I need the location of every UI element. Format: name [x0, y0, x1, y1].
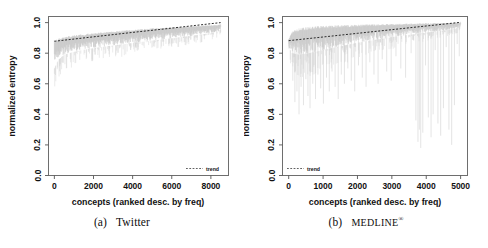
plot-twitter: 0.00.20.40.60.81.0 02000400060008000 nor… [0, 0, 244, 216]
x-tick-label: 0 [52, 181, 57, 191]
plot-medline: 0.00.20.40.60.81.0 010002000300040005000… [244, 0, 488, 216]
plot-area-medline [289, 22, 461, 148]
caption-name-a: Twitter [116, 216, 150, 228]
caption-name-b: MEDLINE [351, 217, 398, 228]
data-spikes-medline [293, 23, 459, 148]
registered-mark-icon: ® [398, 215, 403, 222]
legend-twitter: trend [186, 166, 219, 172]
y-tick-label: 0.2 [267, 139, 277, 151]
x-tick-label: 2000 [348, 181, 367, 191]
caption-medline: (b) MEDLINE® [244, 216, 488, 228]
x-tick-label: 2000 [84, 181, 103, 191]
x-tick-label: 3000 [382, 181, 401, 191]
y-tick-label: 0.4 [267, 108, 277, 120]
y-tick-label: 0.8 [33, 47, 43, 59]
x-tick-label: 4000 [417, 181, 436, 191]
data-band-twitter [54, 24, 220, 86]
y-tick-label: 0.0 [33, 169, 43, 181]
x-axis-twitter: 02000400060008000 [52, 176, 221, 191]
y-tick-label: 0.2 [33, 139, 43, 151]
y-tick-label: 1.0 [33, 16, 43, 28]
y-axis-title-twitter: normalized entropy [7, 55, 17, 136]
y-tick-label: 0.0 [267, 169, 277, 181]
x-tick-label: 4000 [123, 181, 142, 191]
x-tick-label: 8000 [201, 181, 220, 191]
y-tick-label: 0.6 [33, 78, 43, 90]
legend-label-trend: trend [206, 166, 219, 172]
x-tick-label: 1000 [314, 181, 333, 191]
panel-medline: 0.00.20.40.60.81.0 010002000300040005000… [244, 0, 488, 248]
y-tick-label: 0.6 [267, 78, 277, 90]
caption-prefix-b: (b) [328, 216, 342, 228]
caption-prefix-a: (a) [94, 216, 107, 228]
y-axis-medline: 0.00.20.40.60.81.0 [267, 16, 283, 181]
y-tick-label: 0.4 [33, 108, 43, 120]
x-axis-title-twitter: concepts (ranked desc. by freq) [72, 197, 205, 207]
figure-root: 0.00.20.40.60.81.0 02000400060008000 nor… [0, 0, 488, 248]
x-axis-title-medline: concepts (ranked desc. by freq) [309, 197, 442, 207]
legend-label-trend: trend [307, 166, 320, 172]
y-tick-label: 1.0 [267, 16, 277, 28]
x-tick-label: 6000 [162, 181, 181, 191]
caption-twitter: (a) Twitter [0, 216, 244, 228]
x-axis-medline: 010002000300040005000 [286, 176, 470, 191]
x-tick-label: 5000 [451, 181, 470, 191]
y-axis-title-medline: normalized entropy [244, 55, 251, 136]
y-axis-twitter: 0.00.20.40.60.81.0 [33, 16, 49, 181]
y-tick-label: 0.8 [267, 47, 277, 59]
panel-twitter: 0.00.20.40.60.81.0 02000400060008000 nor… [0, 0, 244, 248]
plot-area-twitter [54, 23, 220, 87]
x-tick-label: 0 [286, 181, 291, 191]
legend-medline: trend [287, 166, 320, 172]
